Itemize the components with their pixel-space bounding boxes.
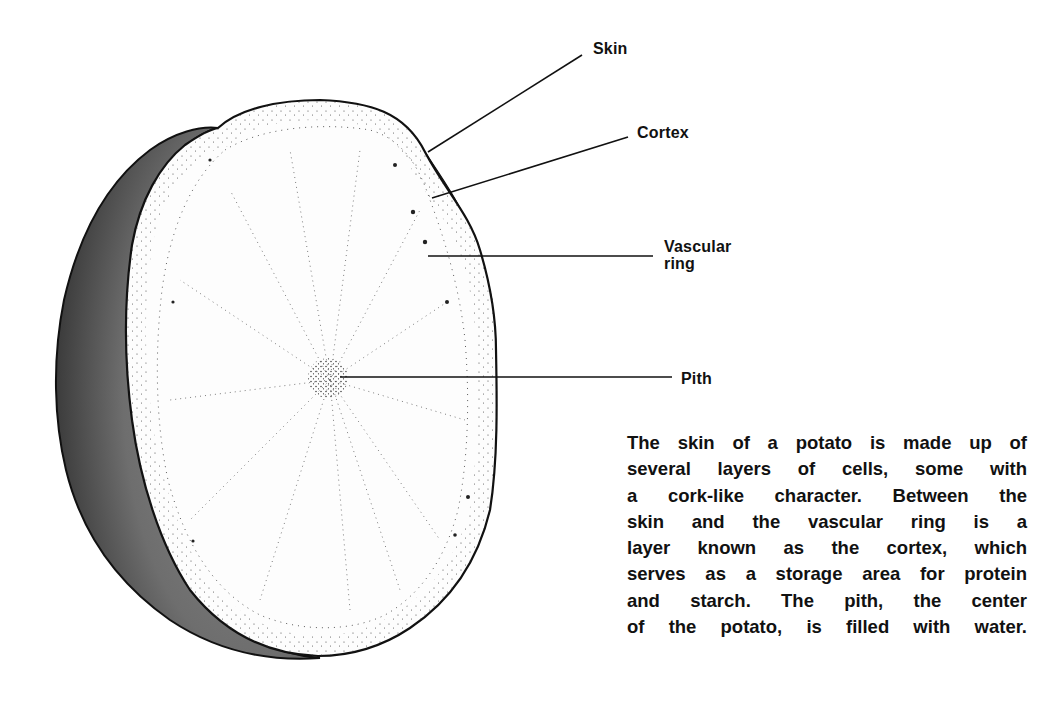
label-vascular-ring-line1: Vascular: [664, 238, 731, 255]
label-skin: Skin: [593, 40, 628, 57]
caption-line: of the potato, is filled with water.: [627, 614, 1027, 640]
caption-line: serves as a storage area for protein: [627, 561, 1027, 587]
caption-line: layer known as the cortex, which: [627, 535, 1027, 561]
caption-paragraph: The skin of a potato is made up of sever…: [627, 430, 1027, 640]
caption-line: several layers of cells, some with: [627, 456, 1027, 482]
potato-diagram: Skin Cortex Vascular ring Pith The skin …: [0, 0, 1053, 721]
caption-line: skin and the vascular ring is a: [627, 509, 1027, 535]
label-vascular-ring: Vascular ring: [664, 238, 731, 272]
label-pith: Pith: [681, 370, 712, 387]
caption-line: a cork-like character. Between the: [627, 483, 1027, 509]
caption-line: and starch. The pith, the center: [627, 588, 1027, 614]
leader-line-skin: [428, 55, 582, 152]
caption-line: The skin of a potato is made up of: [627, 430, 1027, 456]
leader-line-cortex: [432, 137, 628, 198]
label-cortex: Cortex: [637, 124, 689, 141]
label-vascular-ring-line2: ring: [664, 255, 731, 272]
pith-center: [308, 358, 348, 398]
